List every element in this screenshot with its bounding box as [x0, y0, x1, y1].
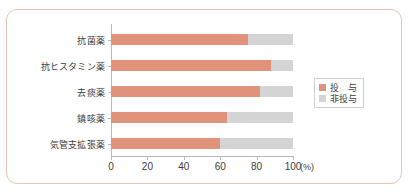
bar-segment-not-given	[248, 34, 294, 45]
bar-segment-not-given	[220, 138, 293, 149]
x-axis-tick	[147, 156, 148, 160]
y-axis-category-label: 鎮咳薬	[77, 111, 105, 124]
legend-swatch-given	[319, 84, 326, 91]
x-axis-tick	[111, 156, 112, 160]
x-axis-tick-label: 80	[251, 161, 262, 172]
x-axis-tick-label: 0	[108, 161, 114, 172]
plot-area: 抗菌薬抗ヒスタミン薬去痰薬鎮咳薬気管支拡張薬	[111, 24, 293, 156]
y-axis-category-label: 気管支拡張薬	[50, 137, 105, 150]
bar-row: 抗ヒスタミン薬	[111, 60, 293, 71]
legend-label-not-given: 非投与	[330, 92, 358, 105]
x-axis-tick-label: 60	[215, 161, 226, 172]
y-axis-category-label: 抗ヒスタミン薬	[41, 59, 105, 72]
x-axis-tick-label: 100	[285, 161, 302, 172]
x-axis-line	[111, 156, 293, 157]
bar-row: 抗菌薬	[111, 34, 293, 45]
bar-row: 去痰薬	[111, 86, 293, 97]
x-axis-tick-label: 20	[142, 161, 153, 172]
bar-segment-given	[111, 60, 271, 71]
bar-segment-given	[111, 138, 220, 149]
bar-row: 気管支拡張薬	[111, 138, 293, 149]
x-axis-tick	[293, 156, 294, 160]
x-axis-tick	[220, 156, 221, 160]
y-axis-category-label: 抗菌薬	[77, 33, 105, 46]
x-axis-tick-label: 40	[178, 161, 189, 172]
y-axis-category-label: 去痰薬	[77, 85, 105, 98]
bar-segment-given	[111, 86, 260, 97]
x-axis-tick	[257, 156, 258, 160]
bar-segment-given	[111, 34, 248, 45]
bar-segment-not-given	[227, 112, 293, 123]
legend-swatch-not-given	[319, 95, 326, 102]
chart-figure: 抗菌薬抗ヒスタミン薬去痰薬鎮咳薬気管支拡張薬 020406080100 (%) …	[0, 0, 412, 196]
bar-row: 鎮咳薬	[111, 112, 293, 123]
bar-segment-not-given	[260, 86, 293, 97]
x-axis-unit-label: (%)	[300, 162, 314, 172]
x-axis-tick	[184, 156, 185, 160]
legend-item-not-given[interactable]: 非投与	[319, 93, 358, 104]
bar-segment-given	[111, 112, 227, 123]
bar-segment-not-given	[271, 60, 293, 71]
chart-legend: 投 与 非投与	[314, 78, 364, 108]
